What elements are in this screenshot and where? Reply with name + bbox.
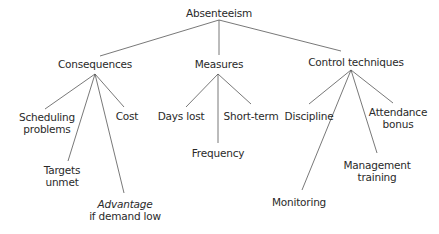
node-advantage-if-demand-low: Advantage if demand low: [89, 198, 161, 222]
node-label: if demand low: [89, 210, 161, 222]
node-management-training: Management training: [343, 159, 410, 183]
edge-control-attendance: [351, 70, 393, 103]
node-monitoring: Monitoring: [272, 196, 326, 208]
node-label: Control techniques: [308, 56, 404, 68]
node-label: bonus: [369, 118, 427, 130]
node-label: Days lost: [158, 110, 205, 122]
node-label: Discipline: [285, 110, 334, 122]
edge-measures-dayslost: [186, 74, 218, 107]
edge-root-consequences: [100, 20, 219, 56]
node-control-techniques: Control techniques: [308, 56, 404, 68]
node-consequences: Consequences: [58, 58, 132, 70]
node-cost: Cost: [116, 110, 139, 122]
edge-control-discipline: [309, 70, 351, 104]
node-label: Frequency: [192, 147, 244, 159]
node-scheduling-problems: Scheduling problems: [19, 111, 75, 135]
edge-measures-shortterm: [218, 74, 251, 104]
node-label: problems: [19, 123, 75, 135]
node-label: Cost: [116, 110, 139, 122]
node-label: unmet: [44, 176, 81, 188]
edge-root-control: [219, 20, 341, 51]
node-label: Monitoring: [272, 196, 326, 208]
node-targets-unmet: Targets unmet: [44, 164, 81, 188]
node-label: Attendance: [369, 106, 427, 118]
node-days-lost: Days lost: [158, 110, 205, 122]
node-discipline: Discipline: [285, 110, 334, 122]
node-label: Absenteeism: [186, 7, 252, 19]
node-label: Scheduling: [19, 111, 75, 123]
edge-consequences-scheduling: [45, 74, 95, 109]
node-label: Targets: [44, 164, 81, 176]
node-measures: Measures: [195, 58, 244, 70]
edge-consequences-advantage: [95, 74, 124, 193]
node-label: Measures: [195, 58, 244, 70]
node-short-term: Short-term: [224, 110, 279, 122]
node-label: Consequences: [58, 58, 132, 70]
node-root: Absenteeism: [186, 7, 252, 19]
node-label: Short-term: [224, 110, 279, 122]
node-label: Advantage: [89, 198, 161, 210]
node-frequency: Frequency: [192, 147, 244, 159]
node-label: Management: [343, 159, 410, 171]
node-label: training: [343, 171, 410, 183]
node-attendance-bonus: Attendance bonus: [369, 106, 427, 130]
